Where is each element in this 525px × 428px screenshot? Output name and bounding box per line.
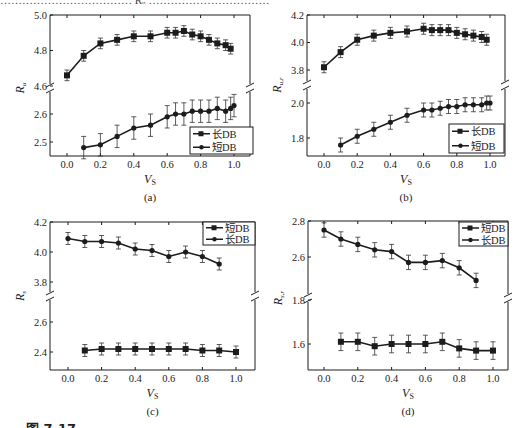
- square-marker-icon: [321, 64, 327, 70]
- chart-b: 0.00.20.40.60.81.03.84.04.21.82.0VSRu,r(…: [270, 10, 509, 205]
- circle-marker-icon: [173, 111, 178, 116]
- square-marker-icon: [439, 339, 445, 345]
- x-tick-label: 0.6: [417, 159, 430, 170]
- square-marker-icon: [189, 32, 195, 38]
- x-axis-label: VS: [400, 172, 412, 187]
- circle-marker-icon: [457, 265, 462, 270]
- subfigure-caption: (c): [146, 405, 159, 418]
- square-marker-icon: [338, 339, 344, 345]
- y-tick-label: 2.8: [292, 216, 305, 227]
- x-tick-label: 0.4: [385, 373, 399, 384]
- figure-canvas: 0.00.20.40.60.81.04.64.85.02.52.6VSRu(a)…: [0, 0, 525, 428]
- series-line: [324, 230, 476, 280]
- circle-marker-icon: [131, 125, 136, 130]
- series-line: [341, 342, 493, 351]
- x-tick-label: 0.0: [61, 373, 74, 384]
- circle-marker-icon: [338, 236, 343, 241]
- legend-square-marker-icon: [468, 226, 473, 231]
- chart-c: 0.00.20.40.60.81.03.84.04.22.42.6VSRs(c)…: [13, 217, 259, 419]
- circle-marker-icon: [321, 227, 326, 232]
- x-tick-label: 0.6: [419, 373, 432, 384]
- legend-circle-marker-icon: [199, 145, 203, 149]
- y-tick-label: 2.6: [34, 109, 47, 120]
- square-marker-icon: [371, 33, 377, 39]
- x-tick-label: 0.0: [60, 159, 73, 170]
- series-line: [85, 349, 236, 352]
- circle-marker-icon: [231, 103, 236, 108]
- square-marker-icon: [233, 349, 239, 355]
- circle-marker-icon: [198, 109, 203, 114]
- x-tick-label: 1.0: [483, 159, 496, 170]
- legend-circle-marker-icon: [458, 144, 462, 148]
- circle-marker-icon: [474, 278, 479, 283]
- circle-marker-icon: [190, 109, 195, 114]
- legend: 长DB短DB: [190, 127, 253, 154]
- square-marker-icon: [421, 26, 427, 32]
- x-tick-label: 0.8: [196, 373, 209, 384]
- square-marker-icon: [404, 29, 410, 35]
- y-tick-label: 1.6: [292, 339, 305, 350]
- y-axis-label: Rs: [13, 291, 28, 302]
- circle-marker-icon: [440, 258, 445, 263]
- circle-marker-icon: [338, 142, 343, 147]
- circle-marker-icon: [421, 107, 426, 112]
- y-tick-label: 5.0: [34, 10, 47, 21]
- x-tick-label: 1.0: [229, 373, 242, 384]
- square-marker-icon: [206, 37, 212, 43]
- square-marker-icon: [183, 346, 189, 352]
- legend-circle-marker-icon: [212, 237, 216, 241]
- square-marker-icon: [166, 346, 172, 352]
- legend-label: 短DB: [225, 222, 250, 234]
- square-marker-icon: [181, 28, 187, 34]
- square-marker-icon: [164, 30, 170, 36]
- y-tick-label: 1.8: [291, 133, 304, 144]
- legend: 短DB长DB: [459, 222, 508, 246]
- square-marker-icon: [216, 348, 222, 354]
- x-tick-label: 0.8: [450, 159, 463, 170]
- circle-marker-icon: [487, 100, 492, 105]
- square-marker-icon: [484, 37, 490, 43]
- x-tick-label: 1.0: [227, 159, 240, 170]
- square-marker-icon: [490, 348, 496, 354]
- circle-marker-icon: [133, 246, 138, 251]
- square-marker-icon: [473, 348, 479, 354]
- square-marker-icon: [422, 341, 428, 347]
- y-axis-label: Rs,r: [271, 290, 286, 306]
- square-marker-icon: [99, 346, 105, 352]
- x-tick-label: 0.2: [351, 373, 364, 384]
- y-tick-label: 2.6: [292, 252, 305, 263]
- y-tick-label: 4.8: [34, 45, 47, 56]
- chart-d: 0.00.20.40.60.81.02.62.81.61.8VSRs,r(d)短…: [271, 216, 512, 419]
- square-marker-icon: [372, 343, 378, 349]
- circle-marker-icon: [217, 261, 222, 266]
- circle-marker-icon: [355, 134, 360, 139]
- x-tick-label: 0.4: [127, 159, 141, 170]
- x-tick-label: 0.2: [351, 159, 364, 170]
- circle-marker-icon: [389, 249, 394, 254]
- series-circle: [65, 233, 221, 271]
- legend-square-marker-icon: [212, 225, 217, 230]
- y-tick-label: 4.2: [291, 10, 304, 21]
- series-circle: [321, 223, 478, 288]
- legend-label: 短DB: [471, 140, 496, 152]
- square-marker-icon: [387, 30, 393, 36]
- legend-square-marker-icon: [199, 131, 204, 136]
- circle-marker-icon: [116, 240, 121, 245]
- chart-a: 0.00.20.40.60.81.04.64.85.02.52.6VSRu(a)…: [13, 10, 254, 205]
- x-tick-label: 0.4: [384, 159, 398, 170]
- circle-marker-icon: [223, 109, 228, 114]
- square-marker-icon: [354, 37, 360, 43]
- circle-marker-icon: [81, 145, 86, 150]
- y-axis-label: Ru: [13, 82, 28, 94]
- square-marker-icon: [446, 27, 452, 33]
- circle-marker-icon: [115, 134, 120, 139]
- y-tick-label: 4.2: [34, 217, 47, 228]
- circle-marker-icon: [438, 106, 443, 111]
- y-tick-label: 2.0: [291, 98, 304, 109]
- circle-marker-icon: [65, 236, 70, 241]
- circle-marker-icon: [166, 254, 171, 259]
- square-marker-icon: [81, 53, 87, 59]
- x-axis-label: VS: [144, 172, 156, 187]
- y-tick-label: 3.8: [291, 65, 304, 76]
- square-marker-icon: [114, 37, 120, 43]
